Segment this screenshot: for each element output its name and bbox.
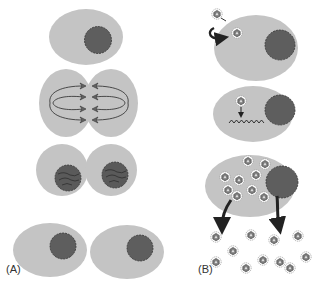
- panel-a: [13, 9, 164, 279]
- panel-a-label: (A): [6, 263, 21, 275]
- released-virions: [211, 230, 311, 273]
- replication-cell: [205, 155, 298, 226]
- daughter-cells-interphase: [13, 223, 164, 279]
- interphase-cell: [49, 9, 123, 65]
- nucleus-left: [55, 165, 81, 191]
- daughter-cells-condensed: [36, 144, 137, 196]
- integration-cell: [213, 86, 295, 142]
- nucleus: [85, 27, 112, 54]
- panel-b: [205, 9, 311, 273]
- panel-b-label: (B): [198, 263, 213, 275]
- dividing-cell-spindle: [39, 69, 138, 137]
- diagram-canvas: [0, 0, 318, 284]
- nucleus-right: [102, 162, 128, 188]
- release-arrow-right-icon: [277, 196, 279, 226]
- virus-entry-cell: [210, 9, 298, 81]
